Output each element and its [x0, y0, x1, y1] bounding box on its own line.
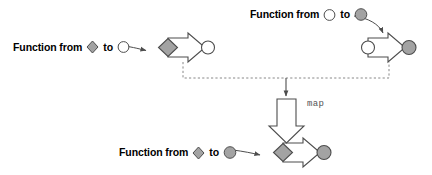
label-source-function-left: Function from to: [13, 40, 130, 54]
circle-gray-icon: [354, 7, 368, 22]
connector-label-to-glyph-bottom: [233, 150, 260, 155]
block-arrow-down-icon: [269, 99, 304, 143]
diamond-gray-icon: [192, 146, 205, 160]
label-middle-right: to: [340, 9, 350, 20]
label-prefix-left: Function from: [13, 42, 82, 53]
map-operator-label: map: [307, 99, 324, 109]
block-arrow-right-icon: [283, 138, 320, 167]
glyph-source-function-right: [362, 33, 417, 62]
circle-white-icon: [362, 41, 375, 54]
label-prefix-bottom: Function from: [119, 147, 188, 158]
label-prefix-right: Function from: [250, 9, 319, 20]
label-source-function-right: Function from to: [250, 7, 368, 22]
circle-white-icon: [323, 8, 336, 22]
label-result-function: Function from to: [119, 145, 237, 160]
circle-gray-icon: [402, 41, 416, 55]
block-arrow-right-icon: [168, 33, 205, 62]
label-middle-bottom: to: [209, 147, 219, 158]
circle-white-icon: [202, 41, 215, 54]
label-middle-left: to: [103, 42, 113, 53]
circle-gray-icon: [317, 146, 331, 160]
diamond-gray-icon: [159, 39, 178, 57]
block-arrow-right-icon: [368, 33, 405, 62]
glyph-source-function-left: [159, 33, 215, 62]
diagram-canvas: Function from to Function from to: [0, 0, 432, 175]
glyph-map-operator: [269, 99, 304, 143]
glyph-result-function: [274, 138, 332, 167]
circle-white-icon: [117, 40, 130, 54]
diamond-gray-icon: [274, 144, 293, 162]
connector-inputs-join-dashed: [183, 62, 389, 78]
diamond-gray-icon: [86, 40, 99, 54]
circle-gray-icon: [223, 145, 237, 160]
